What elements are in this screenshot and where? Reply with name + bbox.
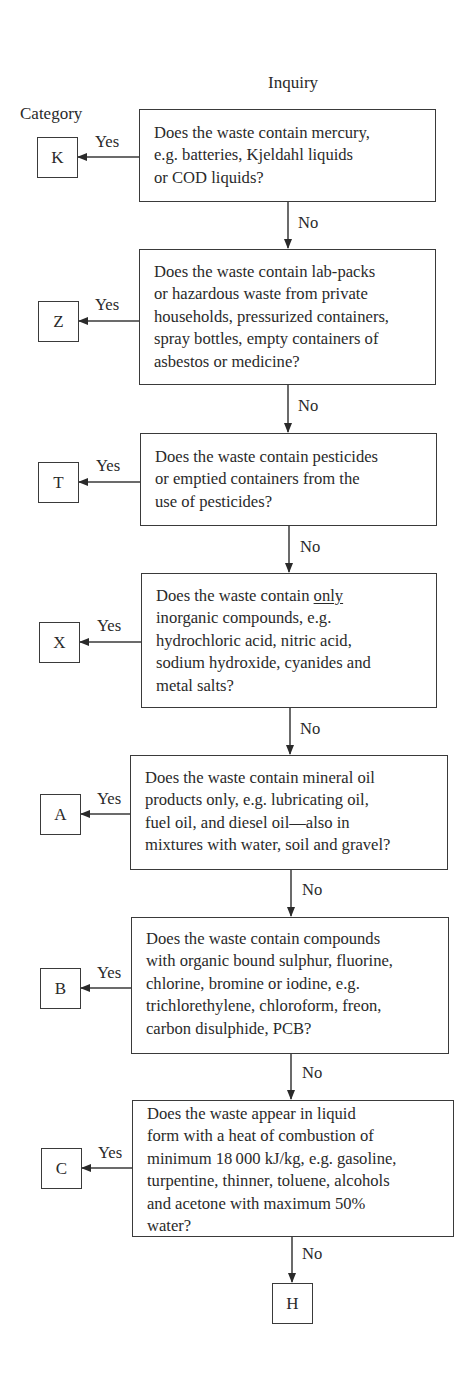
question-box-organic-halogen: Does the waste contain compoundswith org… [131,917,449,1054]
yes-label: Yes [97,964,121,982]
no-label: No [302,1064,322,1082]
question-text: Does the waste contain mineral oilproduc… [145,767,390,857]
category-box-b: B [40,968,81,1009]
yes-label: Yes [95,296,119,314]
yes-label: Yes [96,457,120,475]
category-box-a: A [40,794,81,835]
category-column-header: Category [20,104,82,124]
question-box-lab-packs: Does the waste contain lab-packsor hazar… [139,249,436,385]
emphasis-only: only [314,586,344,605]
category-box-c: C [41,1148,82,1189]
question-box-inorganic: Does the waste contain onlyinorganic com… [141,573,437,708]
question-text: Does the waste contain mercury,e.g. batt… [154,122,370,189]
no-label: No [302,1245,322,1263]
no-label: No [298,397,318,415]
question-box-liquid-combustion: Does the waste appear in liquidform with… [132,1100,454,1237]
yes-label: Yes [95,133,119,151]
category-box-k: K [37,137,78,178]
question-text: Does the waste contain onlyinorganic com… [156,585,371,697]
question-text: Does the waste appear in liquidform with… [147,1103,396,1237]
yes-label: Yes [97,617,121,635]
question-text: Does the waste contain pesticidesor empt… [155,446,378,513]
no-label: No [300,720,320,738]
yes-label: Yes [97,790,121,808]
question-text: Does the waste contain lab-packsor hazar… [154,261,389,373]
inquiry-column-header: Inquiry [268,73,318,93]
no-label: No [300,538,320,556]
no-label: No [302,881,322,899]
yes-label: Yes [98,1144,122,1162]
category-box-z: Z [38,301,79,342]
question-text: Does the waste contain compoundswith org… [146,928,393,1040]
no-label: No [298,214,318,232]
category-box-t: T [38,462,79,503]
category-box-h: H [272,1283,313,1324]
question-box-mercury: Does the waste contain mercury,e.g. batt… [139,109,436,202]
question-box-pesticides: Does the waste contain pesticidesor empt… [140,433,437,526]
category-box-x: X [39,622,80,663]
question-box-mineral-oil: Does the waste contain mineral oilproduc… [130,755,448,870]
